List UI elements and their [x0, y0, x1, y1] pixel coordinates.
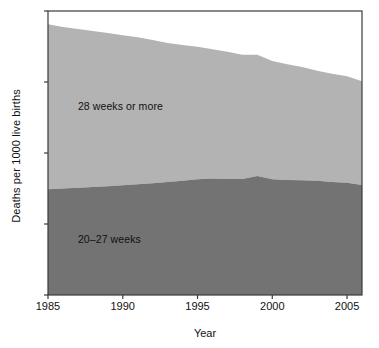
x-tick-label: 1990: [93, 300, 153, 312]
x-tick-label: 2005: [317, 300, 377, 312]
x-tick-label: 1985: [18, 300, 78, 312]
x-tick-label: 1995: [168, 300, 228, 312]
x-tick-label: 2000: [242, 300, 302, 312]
stacked-area-chart: [0, 0, 379, 348]
x-axis-title: Year: [48, 327, 362, 339]
chart-figure: 02468 19851990199520002005 28 weeks or m…: [0, 0, 379, 348]
y-axis-title: Deaths per 1000 live births: [10, 36, 22, 276]
series-annotation-label: 20–27 weeks: [78, 233, 141, 245]
series-annotation-label: 28 weeks or more: [78, 100, 163, 112]
